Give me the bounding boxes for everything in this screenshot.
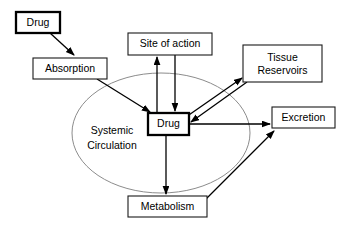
systemic-circulation-label: Systemic Circulation	[87, 124, 137, 151]
node-excretion[interactable]: Excretion	[272, 107, 335, 128]
node-drug-source-label: Drug	[27, 16, 50, 28]
systemic-circulation-label-line2: Circulation	[87, 139, 137, 151]
node-excretion-label: Excretion	[282, 111, 326, 123]
node-tissue-reservoirs-label-line2: Reservoirs	[257, 64, 307, 76]
node-drug-source[interactable]: Drug	[16, 12, 60, 33]
diagram-canvas: Drug Absorption Site of action Tissue Re…	[0, 0, 353, 228]
node-site-of-action[interactable]: Site of action	[128, 33, 212, 55]
systemic-circulation-label-line1: Systemic	[91, 124, 134, 136]
edge-metabolism-to-excretion	[206, 131, 274, 199]
diagram-svg: Drug Absorption Site of action Tissue Re…	[0, 0, 353, 228]
node-metabolism[interactable]: Metabolism	[128, 196, 207, 217]
node-site-of-action-label: Site of action	[140, 37, 201, 49]
node-tissue-reservoirs-label-line1: Tissue	[267, 51, 298, 63]
edge-drug-to-absorption	[50, 33, 74, 55]
node-drug-central[interactable]: Drug	[148, 113, 189, 135]
edge-absorption-to-drug	[97, 79, 150, 112]
node-metabolism-label: Metabolism	[141, 200, 195, 212]
node-drug-central-label: Drug	[157, 117, 180, 129]
node-absorption-label: Absorption	[45, 62, 95, 74]
node-tissue-reservoirs[interactable]: Tissue Reservoirs	[243, 45, 322, 82]
node-absorption[interactable]: Absorption	[33, 58, 107, 79]
edge-drug-to-tissue-reservoirs	[186, 78, 242, 117]
